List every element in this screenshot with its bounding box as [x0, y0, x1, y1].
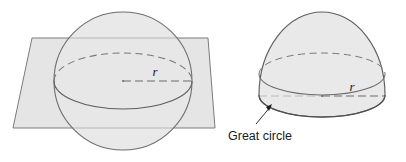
dome-body	[259, 12, 385, 117]
left-diagram-sphere-with-plane: r	[13, 12, 215, 150]
right-diagram-hemisphere: r Great circle	[228, 12, 385, 143]
geometry-figure-svg: r r Great circle	[0, 0, 406, 162]
great-circle-label: Great circle	[228, 129, 292, 143]
geometry-figure-container: r r Great circle	[0, 0, 406, 162]
sphere-center-point	[122, 80, 124, 82]
dome-center-point	[321, 95, 323, 97]
